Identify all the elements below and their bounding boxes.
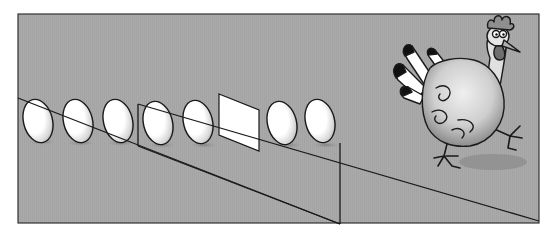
rooster-wattle bbox=[494, 46, 505, 60]
rooster-body bbox=[422, 58, 504, 146]
egg-rooster-illustration bbox=[0, 0, 560, 241]
